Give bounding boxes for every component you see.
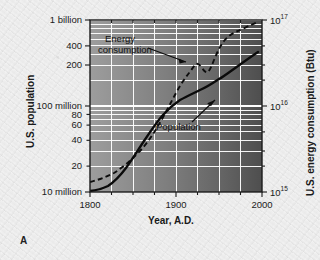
annotation-energy-line2: consumption: [98, 45, 152, 55]
ytick-label-400: 400: [12, 41, 82, 51]
y2-axis-title: U.S. energy consumption (Btu): [306, 49, 316, 196]
annotation-population: Population: [156, 122, 201, 132]
y-axis-title: U.S. population: [26, 75, 36, 148]
x-axis-title: Year, A.D.: [148, 216, 194, 226]
figure-panel: 1 billion 400 200 100 million 80 60 40 2…: [0, 0, 320, 260]
ytick-label-40: 40: [12, 135, 82, 145]
annotation-energy-line1: Energy: [105, 34, 135, 44]
y2tick-mantissa-1e16: 10: [270, 101, 281, 112]
y2tick-exponent-1e16: 16: [281, 99, 288, 106]
ytick-label-10-million: 10 million: [7, 187, 82, 197]
xtick-label-1900: 1900: [160, 200, 192, 210]
ytick-label-200: 200: [12, 60, 82, 70]
xtick-label-1800: 1800: [74, 200, 106, 210]
left-axis-ticks: [85, 20, 90, 192]
ytick-label-20: 20: [12, 161, 82, 171]
y2tick-label-1e16: 1016: [270, 101, 288, 112]
y2tick-mantissa-1e17: 10: [270, 15, 281, 26]
y2tick-label-1e15: 1015: [270, 187, 288, 198]
ytick-label-1-billion: 1 billion: [12, 15, 82, 25]
y2tick-exponent-1e15: 15: [281, 185, 288, 192]
right-axis-ticks: [262, 20, 267, 192]
x-axis-ticks: [90, 192, 262, 197]
xtick-label-2000: 2000: [246, 200, 278, 210]
y2tick-mantissa-1e15: 10: [270, 187, 281, 198]
ytick-label-60: 60: [12, 120, 82, 130]
y2tick-exponent-1e17: 17: [281, 13, 288, 20]
y2tick-label-1e17: 1017: [270, 15, 288, 26]
panel-letter: A: [20, 236, 27, 246]
